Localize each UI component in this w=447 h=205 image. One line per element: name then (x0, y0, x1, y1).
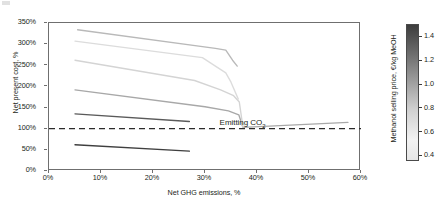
x-axis-title: Net GHG emissions, % (48, 188, 360, 197)
chart-figure: Net present cost, % 0%50%100%150%200%250… (0, 0, 447, 205)
y-tick-label: 100% (18, 124, 36, 131)
colorbar-tick-mark (419, 131, 422, 132)
colorbar-tick-label: 0.8 (424, 104, 434, 111)
x-tick-label: 50% (288, 174, 328, 181)
series-line (75, 145, 189, 151)
colorbar-tick-label: 0.4 (424, 151, 434, 158)
colorbar-tick-label: 1.2 (424, 56, 434, 63)
y-tick-label: 150% (18, 103, 36, 110)
plot-area (48, 22, 360, 170)
emitting-co2-subscript: 2 (262, 122, 265, 128)
y-tick-mark (44, 149, 47, 150)
series-line (75, 90, 348, 128)
colorbar-tick-label: 0.6 (424, 128, 434, 135)
series-line (75, 60, 243, 127)
y-tick-mark (44, 22, 47, 23)
y-tick-mark (44, 107, 47, 108)
y-tick-mark (44, 170, 47, 171)
plot-series-svg (49, 23, 361, 171)
y-tick-label: 250% (18, 61, 36, 68)
colorbar-tick-label: 1.0 (424, 80, 434, 87)
x-tick-label: 40% (236, 174, 276, 181)
colorbar-tick-label: 1.4 (424, 32, 434, 39)
x-tick-label: 10% (80, 174, 120, 181)
emitting-co2-annotation: Emitting CO2 (220, 118, 266, 129)
colorbar-tick-mark (419, 107, 422, 108)
x-tick-label: 60% (340, 174, 380, 181)
y-tick-label: 0% (26, 166, 36, 173)
y-tick-mark (44, 43, 47, 44)
y-tick-mark (44, 64, 47, 65)
colorbar-title: Methanol selling price, €/kg MeOH (389, 35, 398, 143)
emitting-co2-text: Emitting CO (220, 118, 263, 127)
y-tick-label: 50% (22, 145, 36, 152)
y-tick-mark (44, 85, 47, 86)
series-line (78, 30, 238, 66)
x-tick-label: 20% (132, 174, 172, 181)
x-tick-label: 0% (28, 174, 68, 181)
y-tick-label: 200% (18, 82, 36, 89)
series-line (75, 41, 238, 99)
y-tick-label: 300% (18, 39, 36, 46)
x-tick-label: 30% (184, 174, 224, 181)
colorbar-tick-mark (419, 36, 422, 37)
y-tick-mark (44, 128, 47, 129)
y-tick-label: 350% (18, 18, 36, 25)
colorbar-gradient (406, 24, 419, 161)
series-line (75, 114, 189, 122)
colorbar-tick-mark (419, 84, 422, 85)
colorbar-tick-mark (419, 155, 422, 156)
colorbar-tick-mark (419, 60, 422, 61)
